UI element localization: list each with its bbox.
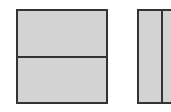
left-rectangle-halved-horizontally <box>16 9 108 104</box>
horizontal-divider <box>18 56 106 58</box>
right-rectangle-halved-vertically <box>137 9 171 104</box>
vertical-divider <box>161 11 163 102</box>
